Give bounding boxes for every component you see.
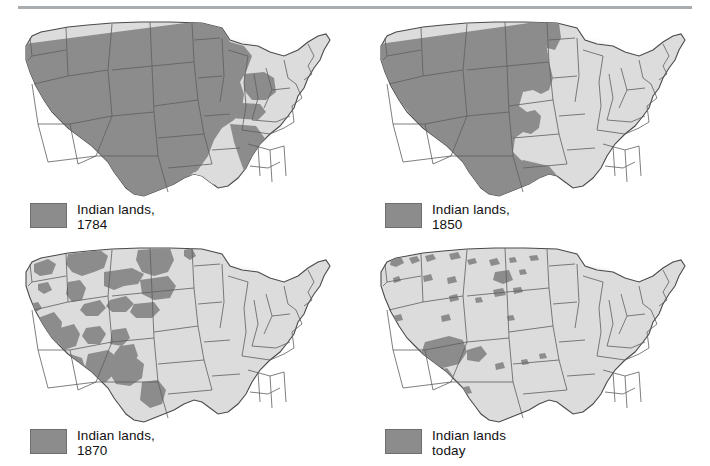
map-panel-1870: Indian lands, 1870 [0,240,355,466]
legend-label-1784: Indian lands, 1784 [77,202,155,232]
us-map-1850 [363,16,703,212]
us-map-1870 [8,242,348,438]
legend-1784: Indian lands, 1784 [30,202,155,232]
us-base-outline [381,248,685,422]
map-panel-today: Indian lands today [355,240,710,466]
legend-label-1850: Indian lands, 1850 [432,202,510,232]
indian-lands-swatch [30,203,67,228]
map-series-grid: Indian lands, 1784 [0,14,710,466]
legend-1870: Indian lands, 1870 [30,428,155,458]
map-panel-1850: Indian lands, 1850 [355,14,710,240]
map-panel-1784: Indian lands, 1784 [0,14,355,240]
us-map-today [363,242,703,438]
legend-1850: Indian lands, 1850 [385,202,510,232]
indian-lands-swatch [385,203,422,228]
legend-label-1870: Indian lands, 1870 [77,428,155,458]
legend-label-today: Indian lands today [432,428,506,458]
indian-lands-swatch [30,429,67,454]
legend-today: Indian lands today [385,428,506,458]
us-map-1784 [8,16,348,212]
top-divider-rule [18,6,692,9]
indian-lands-swatch [385,429,422,454]
